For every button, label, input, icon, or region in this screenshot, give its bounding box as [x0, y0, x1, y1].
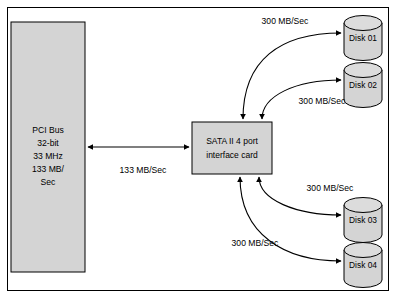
- sata-interface-card: SATA II 4 port interface card: [192, 122, 272, 174]
- disk-03-top: [344, 198, 382, 213]
- disk-02: Disk 02: [344, 63, 382, 108]
- sata-card-line-2: interface card: [206, 150, 258, 160]
- edge-label-card-to-disk-03: 300 MB/Sec: [307, 183, 355, 193]
- disk-04: Disk 04: [344, 243, 382, 288]
- pci-bus-line-1: PCI Bus: [32, 125, 64, 135]
- edge-label-card-to-disk-02: 300 MB/Sec: [299, 96, 347, 106]
- pci-bus-line-2: 32-bit: [37, 138, 59, 148]
- pci-bus-line-3: 33 MHz: [33, 151, 63, 161]
- disk-04-label: Disk 04: [349, 260, 377, 270]
- sata-card-rect: [192, 122, 272, 174]
- pci-bus-block: PCI Bus 32-bit 33 MHz 133 MB/ Sec: [11, 22, 85, 272]
- disk-04-top: [344, 243, 382, 258]
- disk-03-label: Disk 03: [349, 215, 377, 225]
- sata-card-line-1: SATA II 4 port: [206, 136, 258, 146]
- edge-label-card-to-disk-01: 300 MB/Sec: [262, 16, 310, 26]
- connector-card-to-disk-01: [243, 33, 341, 119]
- diagram-svg: PCI Bus 32-bit 33 MHz 133 MB/ Sec SATA I…: [0, 0, 396, 298]
- disk-01: Disk 01: [344, 16, 382, 61]
- pci-bus-line-4: 133 MB/: [32, 164, 65, 174]
- disk-02-top: [344, 63, 382, 78]
- edge-label-pci-to-card: 133 MB/Sec: [120, 165, 168, 175]
- disk-03: Disk 03: [344, 198, 382, 243]
- diagram-canvas: PCI Bus 32-bit 33 MHz 133 MB/ Sec SATA I…: [0, 0, 396, 298]
- edge-label-card-to-disk-04: 300 MB/Sec: [232, 238, 280, 248]
- disk-01-label: Disk 01: [349, 33, 377, 43]
- disk-02-label: Disk 02: [349, 80, 377, 90]
- pci-bus-line-5: Sec: [41, 177, 57, 187]
- disk-01-top: [344, 16, 382, 31]
